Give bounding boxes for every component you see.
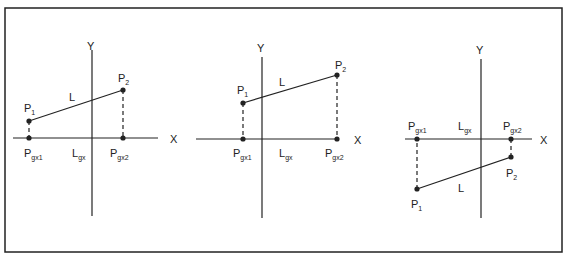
point-pgx1 [414,136,419,141]
label-p2: P2 [506,167,517,181]
point-pgx1 [26,135,31,140]
label-lgx: Lgx [72,147,86,162]
label-pgx1: Pgx1 [24,147,43,162]
line-segment-L [29,90,123,121]
point-pgx2 [120,135,125,140]
point-p2 [334,72,339,77]
label-l: L [458,182,464,194]
label-pgx2: Pgx2 [503,120,522,135]
y-axis-label: Y [87,40,95,52]
diagram-canvas: XYP1P2Pgx1Pgx2LLgxXYP1P2Pgx1Pgx2LLgxXYP1… [0,0,566,258]
label-p1: P1 [411,198,422,212]
y-axis-label: Y [476,44,484,56]
label-pgx1: Pgx1 [408,120,427,135]
label-p2: P2 [335,59,346,73]
label-p2: P2 [118,72,129,86]
label-pgx2: Pgx2 [325,147,344,162]
point-p1 [26,118,31,123]
point-p2 [120,87,125,92]
label-p1: P1 [24,102,35,116]
point-p2 [508,154,513,159]
point-pgx2 [334,136,339,141]
label-pgx1: Pgx1 [233,147,252,162]
label-lgx: Lgx [279,147,293,162]
x-axis-label: X [170,133,178,145]
label-pgx2: Pgx2 [110,147,129,162]
label-lgx: Lgx [458,120,472,135]
figure: XYP1P2Pgx1Pgx2LLgxXYP1P2Pgx1Pgx2LLgxXYP1… [0,0,566,258]
point-pgx2 [508,136,513,141]
label-l: L [279,76,285,88]
point-p1 [240,100,245,105]
x-axis-label: X [354,134,362,146]
point-pgx1 [240,136,245,141]
x-axis-label: X [540,134,548,146]
y-axis-label: Y [257,42,265,54]
label-l: L [69,91,75,103]
point-p1 [414,186,419,191]
line-segment-L [243,75,337,103]
label-p1: P1 [237,84,248,98]
